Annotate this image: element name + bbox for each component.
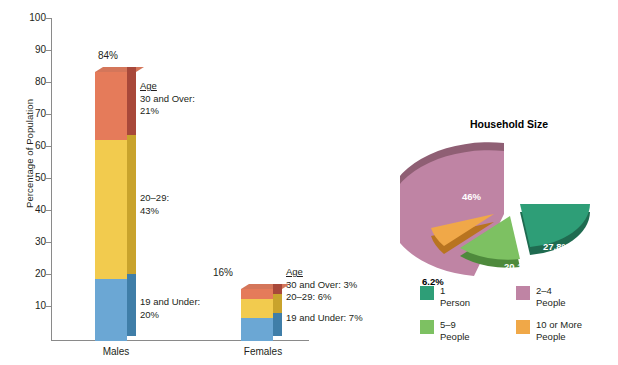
pie-label-2to4: 46% [462,191,481,202]
bar-males-over30-line2: 21% [140,105,195,118]
y-tick-50: 50 [20,173,46,183]
y-tick-30: 30 [20,237,46,247]
x-tick-males: Males [86,346,146,357]
bar-females-2029: 20–29: 6% [286,291,363,304]
pie-label-1person: 27.8% [543,241,570,252]
pie-chart: Household Size [400,0,618,365]
bar-females-seg-under19 [241,318,273,341]
y-tick-70: 70 [20,109,46,119]
bar-males-seg-under19 [95,279,127,341]
bar-chart: Percentage of Population 100 90 80 70 60… [0,0,320,365]
bar-males-under19-line2: 20% [140,309,200,322]
legend-item-2-4-people[interactable]: 2–4People [516,285,618,319]
pie-legend: 1Person 2–4People 5–9People 10 or MorePe… [420,285,618,353]
bar-males-annotation-2029: 20–29: 43% [140,192,169,217]
bar-females-seg-2029 [241,299,273,318]
legend-item-10-or-more-people[interactable]: 10 or MorePeople [516,319,618,353]
x-tick-females: Females [228,346,298,357]
bar-females-seg-under19-side [273,313,282,336]
y-tick-60: 60 [20,141,46,151]
legend-label-2-4-people: 2–4People [536,285,566,308]
bar-males-2029-line2: 43% [140,205,169,218]
bar-females-total-label: 16% [213,267,233,278]
legend-swatch-orange [516,320,530,334]
bar-males-annotation-over30: Age 30 and Over: 21% [140,80,195,118]
legend-swatch-mauve [516,286,530,300]
legend-label-5-9-people: 5–9People [440,319,470,342]
bar-females-seg-over30 [241,289,273,299]
legend-swatch-teal [420,286,434,300]
y-tick-10: 10 [20,301,46,311]
legend-item-1-person[interactable]: 1Person [420,285,516,319]
bar-males-seg-under19-side [127,274,136,336]
legend-label-10-or-more-people: 10 or MorePeople [536,319,582,342]
legend-swatch-green [420,320,434,334]
bar-females [241,0,282,365]
bar-males-annotation-header: Age [140,80,195,93]
y-tick-40: 40 [20,205,46,215]
bar-females-annotation-header: Age [286,266,363,279]
bar-males-seg-over30 [95,72,127,140]
bar-males-seg-over30-side [127,67,136,140]
bar-females-under19: 19 and Under: 7% [286,312,363,325]
bar-males-annotation-under19: 19 and Under: 20% [140,296,200,321]
y-axis-line [51,18,52,341]
y-tick-20: 20 [20,269,46,279]
pie-label-5to9: 20.1% [504,261,531,272]
bar-males-total-label: 84% [98,50,118,61]
legend-item-5-9-people[interactable]: 5–9People [420,319,516,353]
bar-females-annotations: Age 30 and Over: 3% 20–29: 6% 19 and Und… [286,266,363,324]
bar-males-2029-line1: 20–29: [140,192,169,205]
bar-males-seg-2029-side [127,135,136,274]
bar-males-over30-line1: 30 and Over: [140,93,195,106]
y-tick-80: 80 [20,77,46,87]
spacer [286,304,363,312]
y-axis-tick-labels: 100 90 80 70 60 50 40 30 20 10 [20,0,46,365]
figure-canvas: Percentage of Population 100 90 80 70 60… [0,0,618,365]
bar-females-over30: 30 and Over: 3% [286,279,363,292]
pie-chart-title: Household Size [400,118,618,130]
bar-males-under19-line1: 19 and Under: [140,296,200,309]
legend-label-1-person: 1Person [440,285,470,308]
y-tick-90: 90 [20,45,46,55]
bar-males-seg-2029 [95,140,127,279]
y-tick-100: 100 [20,13,46,23]
bar-females-seg-2029-side [273,294,282,313]
